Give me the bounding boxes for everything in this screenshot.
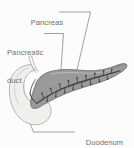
- label-duodenum-line-1: Duodenum: [86, 138, 124, 147]
- pancreas-outline: [31, 64, 127, 109]
- label-pancreatic-duct-line-2: duct: [7, 76, 43, 85]
- label-pancreas-line-1: Pancreas: [31, 18, 63, 27]
- pancreas-body: [31, 64, 127, 109]
- label-pancreatic-duct: Pancreatic duct: [7, 30, 43, 104]
- label-duodenum: Duodenum: [77, 129, 123, 148]
- pancreas-anatomy-figure: Pancreas Pancreatic duct Duodenum: [0, 0, 134, 147]
- label-pancreatic-duct-line-1: Pancreatic: [7, 48, 43, 57]
- leader-line-pancreas: [60, 12, 91, 72]
